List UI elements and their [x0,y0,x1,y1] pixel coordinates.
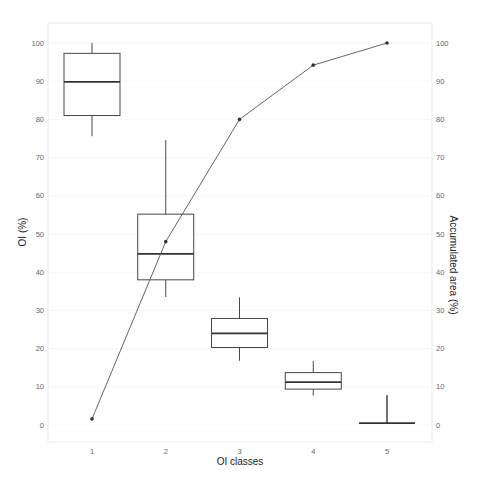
x-tick-label: 2 [164,447,168,456]
y-axis-left-title: OI (%) [17,218,28,247]
y-tick-label-right: 20 [436,344,444,353]
x-axis-title: OI classes [217,456,264,467]
y-tick-label-left: 20 [36,344,44,353]
y-tick-label-right: 30 [436,306,444,315]
accumulated-area-line [90,41,389,420]
y-tick-label-right: 90 [436,77,444,86]
x-tick-label: 1 [90,447,94,456]
iqr-box [138,214,194,280]
y-tick-label-left: 90 [36,77,44,86]
y-tick-label-left: 0 [40,421,44,430]
x-tick-label: 5 [385,447,389,456]
line-point [238,118,242,122]
boxplot-3 [212,297,268,360]
line-point [311,63,315,67]
y-tick-label-right: 0 [436,421,440,430]
y-tick-label-right: 40 [436,268,444,277]
y-tick-label-left: 100 [31,39,44,48]
y-axis-right-ticks: 0102030405060708090100 [436,39,449,430]
y-tick-label-left: 80 [36,115,44,124]
y-tick-label-left: 70 [36,153,44,162]
x-tick-label: 4 [311,447,315,456]
y-tick-label-right: 80 [436,115,444,124]
line-path [92,43,387,419]
line-point [385,41,389,45]
y-tick-label-left: 60 [36,191,44,200]
y-tick-label-right: 60 [436,191,444,200]
line-point [90,417,94,421]
y-tick-label-right: 50 [436,230,444,239]
x-tick-label: 3 [237,447,241,456]
iqr-box [285,373,341,389]
boxplot-series [64,43,415,423]
boxplot-1 [64,43,120,136]
chart: 0102030405060708090100 01020304050607080… [0,0,479,479]
line-point [164,240,168,244]
y-tick-label-right: 10 [436,382,444,391]
y-axis-right-title: Accumulated area (%) [448,216,459,315]
y-tick-label-left: 40 [36,268,44,277]
x-axis-ticks: 12345 [90,447,389,456]
boxplot-5 [359,395,415,423]
y-axis-left-ticks: 0102030405060708090100 [31,39,44,430]
boxplot-4 [285,361,341,396]
iqr-box [64,53,120,115]
y-tick-label-left: 50 [36,230,44,239]
y-tick-label-left: 10 [36,382,44,391]
y-tick-label-right: 70 [436,153,444,162]
y-tick-label-left: 30 [36,306,44,315]
y-tick-label-right: 100 [436,39,449,48]
boxplot-2 [138,140,194,297]
